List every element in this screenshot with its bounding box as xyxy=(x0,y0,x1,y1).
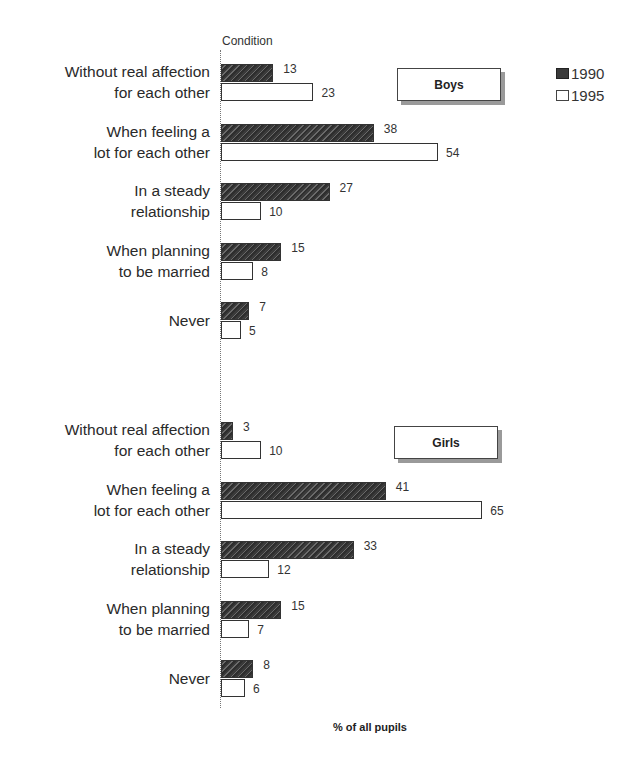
category-label: When planningto be married xyxy=(107,598,210,640)
bar-value-label: 15 xyxy=(291,241,304,255)
bar-boys-1990 xyxy=(221,64,273,82)
category-label: In a steadyrelationship xyxy=(131,180,210,222)
condition-axis-label: Condition xyxy=(222,34,273,48)
category-label: Never xyxy=(169,310,210,331)
bar-boys-1990 xyxy=(221,302,249,320)
bar-girls-1995 xyxy=(221,620,249,638)
bar-value-label: 38 xyxy=(384,122,397,136)
bar-value-label: 7 xyxy=(259,300,266,314)
bar-girls-1990 xyxy=(221,601,281,619)
bar-value-label: 12 xyxy=(277,563,290,577)
bar-boys-1995 xyxy=(221,262,253,280)
bar-girls-1990 xyxy=(221,660,253,678)
bar-value-label: 10 xyxy=(269,205,282,219)
bar-value-label: 27 xyxy=(340,181,353,195)
bar-boys-1995 xyxy=(221,143,438,161)
bar-girls-1995 xyxy=(221,441,261,459)
bar-value-label: 65 xyxy=(490,504,503,518)
bar-value-label: 5 xyxy=(249,324,256,338)
legend: 1990 1995 xyxy=(556,62,604,106)
bar-value-label: 3 xyxy=(243,420,250,434)
bar-girls-1990 xyxy=(221,482,386,500)
bar-value-label: 8 xyxy=(263,658,270,672)
x-axis-label: % of all pupils xyxy=(333,721,407,733)
bar-boys-1995 xyxy=(221,83,313,101)
bar-girls-1990 xyxy=(221,422,233,440)
bar-value-label: 41 xyxy=(396,480,409,494)
bar-value-label: 8 xyxy=(261,265,268,279)
legend-item-1995: 1995 xyxy=(556,84,604,106)
bar-boys-1990 xyxy=(221,124,374,142)
bar-girls-1990 xyxy=(221,541,354,559)
panel-label-girls: Girls xyxy=(394,426,498,459)
legend-label-1990: 1990 xyxy=(571,65,604,82)
legend-swatch-1990 xyxy=(556,68,569,79)
bar-boys-1995 xyxy=(221,202,261,220)
bar-girls-1995 xyxy=(221,501,482,519)
panel-label-boys: Boys xyxy=(397,68,501,101)
legend-label-1995: 1995 xyxy=(571,87,604,104)
bar-value-label: 7 xyxy=(257,623,264,637)
category-label: When planningto be married xyxy=(107,240,210,282)
bar-boys-1990 xyxy=(221,243,281,261)
bar-value-label: 10 xyxy=(269,444,282,458)
legend-swatch-1995 xyxy=(556,90,569,101)
bar-value-label: 13 xyxy=(283,62,296,76)
bar-girls-1995 xyxy=(221,679,245,697)
bar-boys-1995 xyxy=(221,321,241,339)
category-label: Never xyxy=(169,668,210,689)
category-label: Without real affectionfor each other xyxy=(65,61,210,103)
category-label: When feeling alot for each other xyxy=(94,479,210,521)
bar-value-label: 33 xyxy=(364,539,377,553)
category-label: When feeling alot for each other xyxy=(94,121,210,163)
category-label: In a steadyrelationship xyxy=(131,538,210,580)
bar-value-label: 6 xyxy=(253,682,260,696)
bar-value-label: 54 xyxy=(446,146,459,160)
bar-girls-1995 xyxy=(221,560,269,578)
legend-item-1990: 1990 xyxy=(556,62,604,84)
bar-boys-1990 xyxy=(221,183,330,201)
bar-value-label: 23 xyxy=(321,86,334,100)
category-label: Without real affectionfor each other xyxy=(65,419,210,461)
bar-value-label: 15 xyxy=(291,599,304,613)
